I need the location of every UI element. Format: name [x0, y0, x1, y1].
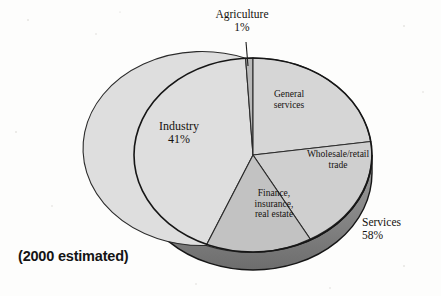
- slice-label-wholesale-retail-trade: Wholesale/retail trade: [290, 149, 386, 170]
- finance-name-2: insurance,: [232, 199, 316, 210]
- slice-label-industry: Industry 41%: [133, 120, 225, 147]
- slice-label-general-services: General services: [248, 89, 330, 110]
- services-name: Services: [362, 216, 401, 228]
- figure-canvas: Agriculture 1% General services Wholesal…: [0, 0, 441, 296]
- wholesale-name-2: trade: [290, 160, 386, 171]
- agriculture-name: Agriculture: [215, 8, 268, 20]
- slice-label-finance-insurance-real-estate: Finance, insurance, real estate: [232, 188, 316, 220]
- wholesale-name-1: Wholesale/retail: [307, 149, 369, 159]
- slice-label-agriculture: Agriculture 1%: [190, 8, 294, 34]
- group-label-services: Services 58%: [362, 216, 438, 242]
- year-note: (2000 estimated): [18, 248, 128, 264]
- finance-name-3: real estate: [232, 209, 316, 220]
- industry-name: Industry: [159, 119, 199, 133]
- finance-name-1: Finance,: [258, 188, 290, 198]
- agriculture-percent: 1%: [190, 21, 294, 34]
- general-services-name-1: General: [274, 89, 304, 99]
- general-services-name-2: services: [248, 100, 330, 111]
- industry-percent: 41%: [133, 133, 225, 146]
- services-percent: 58%: [362, 229, 438, 242]
